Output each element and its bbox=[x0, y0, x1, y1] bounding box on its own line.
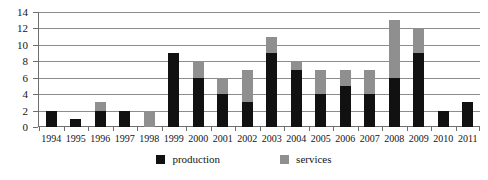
x-axis-tick bbox=[431, 127, 456, 131]
x-axis-tick bbox=[358, 127, 383, 131]
x-axis-tick bbox=[162, 127, 187, 131]
bar-group bbox=[137, 12, 162, 127]
bar-segment-production bbox=[242, 102, 253, 127]
bar-series-container bbox=[39, 12, 480, 127]
bar-group bbox=[407, 12, 432, 127]
bar-segment-production bbox=[291, 70, 302, 128]
bar-group bbox=[358, 12, 383, 127]
legend-swatch-production-icon bbox=[156, 155, 165, 164]
x-axis-tick bbox=[113, 127, 138, 131]
bar-segment-production bbox=[168, 53, 179, 127]
x-axis-tick-label: 2005 bbox=[309, 133, 334, 147]
stacked-bar-chart: 02468101214 1994199519961997199819992000… bbox=[0, 0, 488, 180]
bar-group bbox=[456, 12, 481, 127]
bar-stack bbox=[119, 12, 130, 127]
x-axis-tick-label: 2004 bbox=[284, 133, 309, 147]
bar-group bbox=[333, 12, 358, 127]
x-axis-tick-label: 1999 bbox=[162, 133, 187, 147]
y-axis-tick-label: 8 bbox=[23, 56, 29, 67]
x-axis-tick bbox=[284, 127, 309, 131]
bar-segment-production bbox=[364, 94, 375, 127]
bar-segment-production bbox=[413, 53, 424, 127]
bar-stack bbox=[46, 12, 57, 127]
x-axis-tick-label: 2011 bbox=[456, 133, 481, 147]
bar-stack bbox=[413, 12, 424, 127]
bar-segment-production bbox=[389, 78, 400, 127]
bar-stack bbox=[70, 12, 81, 127]
plot-area bbox=[38, 12, 480, 129]
bar-segment-services bbox=[193, 61, 204, 77]
y-axis-tick-label: 4 bbox=[23, 89, 29, 100]
x-axis-tick bbox=[260, 127, 285, 131]
y-axis-tick-label: 0 bbox=[23, 122, 29, 133]
bar-segment-services bbox=[315, 70, 326, 95]
x-axis-tick bbox=[309, 127, 334, 131]
y-axis-tick-label: 12 bbox=[17, 23, 28, 34]
bar-stack bbox=[217, 12, 228, 127]
bar-segment-services bbox=[266, 37, 277, 53]
bar-segment-services bbox=[217, 78, 228, 94]
x-axis-ticks bbox=[39, 127, 480, 131]
bar-segment-production bbox=[70, 119, 81, 127]
x-axis-tick bbox=[456, 127, 481, 131]
bar-segment-production bbox=[266, 53, 277, 127]
legend-item-production: production bbox=[156, 154, 220, 165]
y-axis-tick-label: 6 bbox=[23, 72, 29, 83]
bar-stack bbox=[266, 12, 277, 127]
bar-segment-services bbox=[95, 102, 106, 110]
x-axis-tick bbox=[211, 127, 236, 131]
bar-segment-production bbox=[193, 78, 204, 127]
bar-segment-services bbox=[364, 70, 375, 95]
x-axis-tick-label: 2008 bbox=[382, 133, 407, 147]
chart-legend: productionservices bbox=[0, 154, 488, 165]
y-axis-tick-label: 14 bbox=[17, 7, 28, 18]
x-axis-tick bbox=[186, 127, 211, 131]
x-axis-tick bbox=[235, 127, 260, 131]
y-axis-tick-label: 10 bbox=[17, 39, 28, 50]
bar-segment-services bbox=[413, 28, 424, 53]
x-axis-tick bbox=[137, 127, 162, 131]
x-axis-tick bbox=[407, 127, 432, 131]
bar-group bbox=[162, 12, 187, 127]
bar-stack bbox=[462, 12, 473, 127]
legend-label: services bbox=[296, 154, 331, 165]
bar-group bbox=[284, 12, 309, 127]
x-axis-tick bbox=[382, 127, 407, 131]
bar-group bbox=[309, 12, 334, 127]
y-axis-tick-label: 2 bbox=[23, 105, 29, 116]
bar-stack bbox=[438, 12, 449, 127]
bar-segment-production bbox=[462, 102, 473, 127]
bar-stack bbox=[315, 12, 326, 127]
bar-segment-production bbox=[46, 111, 57, 127]
x-axis-tick-label: 2000 bbox=[186, 133, 211, 147]
bar-stack bbox=[242, 12, 253, 127]
bar-stack bbox=[193, 12, 204, 127]
bar-segment-production bbox=[438, 111, 449, 127]
x-axis-tick-label: 1997 bbox=[113, 133, 138, 147]
bar-segment-services bbox=[242, 70, 253, 103]
x-axis-tick-label: 2006 bbox=[333, 133, 358, 147]
bar-stack bbox=[168, 12, 179, 127]
legend-item-services: services bbox=[280, 154, 331, 165]
bar-group bbox=[382, 12, 407, 127]
x-axis-tick bbox=[39, 127, 64, 131]
x-axis-tick-label: 2010 bbox=[431, 133, 456, 147]
x-axis-tick-label: 1995 bbox=[64, 133, 89, 147]
bar-group bbox=[235, 12, 260, 127]
bar-group bbox=[260, 12, 285, 127]
x-axis-tick bbox=[64, 127, 89, 131]
bar-segment-services bbox=[291, 61, 302, 69]
bar-stack bbox=[389, 12, 400, 127]
bar-stack bbox=[291, 12, 302, 127]
bar-segment-production bbox=[95, 111, 106, 127]
bar-stack bbox=[144, 12, 155, 127]
y-axis: 02468101214 bbox=[0, 12, 34, 129]
bar-group bbox=[211, 12, 236, 127]
bar-segment-services bbox=[340, 70, 351, 86]
x-axis-tick-label: 2002 bbox=[235, 133, 260, 147]
bar-segment-production bbox=[340, 86, 351, 127]
bar-stack bbox=[364, 12, 375, 127]
x-axis-labels: 1994199519961997199819992000200120022003… bbox=[39, 133, 480, 147]
bar-segment-services bbox=[389, 20, 400, 78]
bar-group bbox=[39, 12, 64, 127]
